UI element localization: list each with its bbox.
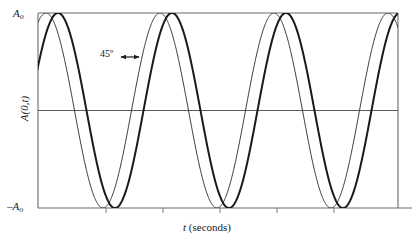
waveform-figure: Ao –Ao A(0,t) t (seconds) 45º xyxy=(0,0,414,241)
x-axis-title: t (seconds) xyxy=(0,222,414,233)
plot-canvas xyxy=(0,0,414,241)
y-axis-title: A(0,t) xyxy=(19,79,30,139)
x-axis-ticks xyxy=(106,208,334,213)
subscript-o: o xyxy=(20,12,24,21)
y-axis-max-label: Ao xyxy=(13,8,24,19)
subscript-o: o xyxy=(19,205,23,214)
phase-difference-label: 45º xyxy=(100,49,113,59)
plot-frame xyxy=(38,13,412,208)
y-axis-min-label: –Ao xyxy=(7,201,23,212)
